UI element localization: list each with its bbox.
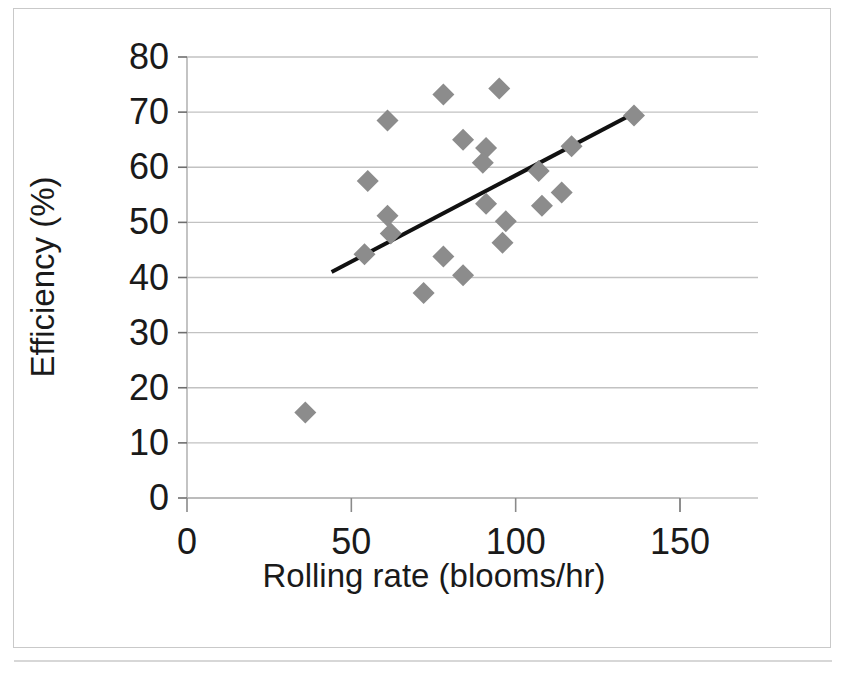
y-tick-label: 40 — [129, 257, 169, 298]
y-axis-ticks — [178, 57, 187, 498]
data-point-marker — [357, 170, 379, 192]
data-point-marker — [551, 182, 573, 204]
x-tick-label: 100 — [486, 521, 546, 562]
data-point-marker — [376, 205, 398, 227]
figure-page: 01020304050607080 050100150 Rolling rate… — [0, 0, 846, 682]
data-point-marker — [531, 195, 553, 217]
gridlines-group — [187, 57, 758, 498]
x-axis-tick-labels: 050100150 — [177, 521, 710, 562]
data-markers-group — [294, 77, 645, 423]
data-point-marker — [380, 222, 402, 244]
data-point-marker — [413, 282, 435, 304]
y-tick-label: 30 — [129, 312, 169, 353]
chart-frame: 01020304050607080 050100150 Rolling rate… — [13, 8, 831, 648]
data-point-marker — [495, 210, 517, 232]
data-point-marker — [432, 246, 454, 268]
data-point-marker — [492, 232, 514, 254]
y-tick-label: 70 — [129, 91, 169, 132]
x-tick-label: 50 — [331, 521, 371, 562]
y-tick-label: 50 — [129, 201, 169, 242]
y-tick-label: 60 — [129, 146, 169, 187]
y-axis-title: Efficiency (%) — [24, 176, 61, 377]
data-point-marker — [472, 152, 494, 174]
trend-line — [332, 113, 634, 272]
y-tick-label: 20 — [129, 367, 169, 408]
y-tick-label: 80 — [129, 36, 169, 77]
data-point-marker — [452, 129, 474, 151]
page-bottom-rule — [14, 660, 832, 662]
x-tick-label: 150 — [650, 521, 710, 562]
y-tick-label: 10 — [129, 422, 169, 463]
data-point-marker — [353, 243, 375, 265]
data-point-marker — [528, 160, 550, 182]
x-axis-title: Rolling rate (blooms/hr) — [263, 557, 606, 594]
data-point-marker — [432, 83, 454, 105]
x-axis-ticks — [187, 498, 680, 512]
x-tick-label: 0 — [177, 521, 197, 562]
data-point-marker — [561, 135, 583, 157]
scatter-plot: 01020304050607080 050100150 Rolling rate… — [14, 9, 832, 649]
y-axis-tick-labels: 01020304050607080 — [129, 36, 169, 518]
data-point-marker — [294, 402, 316, 424]
data-point-marker — [452, 264, 474, 286]
data-point-marker — [623, 104, 645, 126]
data-point-marker — [488, 77, 510, 99]
y-tick-label: 0 — [149, 477, 169, 518]
